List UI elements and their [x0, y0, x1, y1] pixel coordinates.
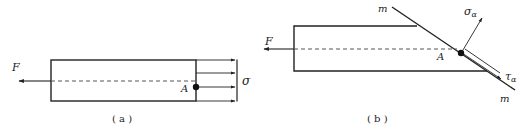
point-label-b: A	[436, 51, 444, 62]
panel-b: m m F σα τα A ( b )	[264, 3, 517, 124]
stress-distribution-a	[196, 60, 237, 102]
plane-label-top: m	[378, 3, 387, 14]
panel-a: F A σ ( a )	[11, 60, 251, 125]
diagram-canvas: F A σ ( a ) m m F σα	[0, 0, 530, 132]
cutting-plane-m-m	[392, 7, 515, 90]
point-b-marker	[458, 50, 464, 56]
shear-stress-label: τα	[505, 70, 517, 84]
point-a-marker	[193, 84, 199, 90]
plane-label-bottom: m	[500, 93, 509, 104]
point-label-a: A	[180, 83, 188, 94]
stress-label-a: σ	[242, 74, 251, 88]
normal-stress-label: σα	[464, 5, 478, 19]
force-label-a: F	[11, 61, 20, 74]
shear-stress-arrow	[462, 49, 501, 79]
caption-a: ( a )	[112, 113, 132, 124]
force-label-b: F	[264, 35, 273, 48]
caption-b: ( b )	[367, 113, 388, 124]
normal-stress-arrow	[463, 18, 482, 50]
